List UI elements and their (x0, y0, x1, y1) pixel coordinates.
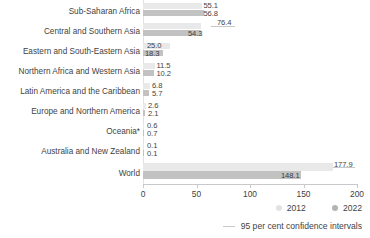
axis-tick (250, 184, 251, 188)
bar-group: 76.4 54.3 (143, 21, 357, 40)
value-label-2022: 56.8 (204, 10, 218, 18)
bar-2022[interactable] (143, 70, 154, 76)
axis-tick-label: 100 (243, 189, 257, 199)
bar-2022[interactable] (143, 110, 145, 116)
bar-2022[interactable] (143, 10, 204, 16)
bar-group: 25.0 18.3 (143, 41, 357, 60)
bar-group: 2.6 2.1 (143, 101, 357, 120)
chart-row: Oceania* 0.6 0.7 (0, 121, 370, 140)
bar-2012[interactable] (143, 3, 202, 9)
axis-tick-label: 200 (350, 189, 364, 199)
bar-2022[interactable] (143, 171, 301, 179)
axis-tick (357, 184, 358, 188)
axis-tick-label: 50 (192, 189, 201, 199)
legend-swatch-icon (276, 205, 282, 211)
chart-container: Sub-Saharan Africa 55.1 56.8 Central and… (0, 0, 370, 238)
category-label: World (119, 169, 140, 178)
axis-tick-label: 150 (297, 189, 311, 199)
category-label: Australia and New Zealand (41, 146, 140, 155)
bar-group: 6.8 5.7 (143, 81, 357, 100)
bar-2012[interactable] (143, 163, 333, 171)
bar-2022[interactable] (143, 130, 144, 136)
chart-row: Eastern and South-Eastern Asia 25.0 18.3 (0, 41, 370, 60)
bar-2022[interactable] (143, 90, 149, 96)
bar-group: 0.1 0.1 (143, 141, 357, 160)
legend-swatch-icon (332, 205, 338, 211)
axis-tick-label: 0 (141, 189, 146, 199)
value-label-2022: 10.2 (157, 70, 171, 78)
bar-2012[interactable] (143, 63, 155, 69)
axis-tick (304, 184, 305, 188)
chart-row: Central and Southern Asia 76.4 54.3 (0, 21, 370, 40)
bar-2012[interactable] (143, 83, 150, 89)
legend-label: 2022 (343, 203, 362, 213)
value-label-2022: 54.3 (188, 30, 202, 38)
bar-2012[interactable] (143, 143, 144, 149)
chart-legend: 2012 2022 (0, 201, 362, 215)
axis-tick (143, 184, 144, 188)
ci-legend-label: 95 per cent confidence intervals (241, 221, 362, 231)
legend-label: 2012 (287, 203, 306, 213)
chart-row-world: World 177.9 148.1 (0, 161, 370, 185)
value-label-2022: 0.1 (147, 150, 157, 158)
value-label-2022: 2.1 (148, 110, 158, 118)
chart-row: Latin America and the Caribbean 6.8 5.7 (0, 81, 370, 100)
legend-item-2012[interactable]: 2012 (276, 203, 306, 213)
bar-2012[interactable] (143, 103, 146, 109)
chart-row: Sub-Saharan Africa 55.1 56.8 (0, 1, 370, 20)
bar-group: 11.5 10.2 (143, 61, 357, 80)
bar-group: 55.1 56.8 (143, 1, 357, 20)
category-label: Northern Africa and Western Asia (18, 66, 140, 75)
value-label-2022: 148.1 (281, 172, 300, 180)
chart-row: Europe and Northern America 2.6 2.1 (0, 101, 370, 120)
bar-group: 177.9 148.1 (143, 161, 357, 185)
category-label: Latin America and the Caribbean (20, 86, 140, 95)
value-label-2022: 0.7 (147, 130, 157, 138)
bar-2012[interactable] (143, 123, 144, 129)
value-label-2012: 177.9 (334, 161, 353, 169)
bar-group: 0.6 0.7 (143, 121, 357, 140)
chart-row: Northern Africa and Western Asia 11.5 10… (0, 61, 370, 80)
value-label-2012: 76.4 (217, 19, 231, 27)
category-label: Eastern and South-Eastern Asia (23, 46, 140, 55)
category-label: Sub-Saharan Africa (69, 6, 140, 15)
category-label: Europe and Northern America (31, 106, 140, 115)
legend-item-2022[interactable]: 2022 (332, 203, 362, 213)
ci-line-icon (223, 226, 235, 227)
category-label: Oceania* (106, 126, 140, 135)
axis-tick (197, 184, 198, 188)
value-label-2022: 5.7 (152, 90, 162, 98)
value-label-2022: 18.3 (145, 50, 159, 58)
category-label: Central and Southern Asia (44, 26, 140, 35)
confidence-interval-legend: 95 per cent confidence intervals (0, 221, 362, 231)
chart-row: Australia and New Zealand 0.1 0.1 (0, 141, 370, 160)
bar-2022[interactable] (143, 150, 144, 156)
